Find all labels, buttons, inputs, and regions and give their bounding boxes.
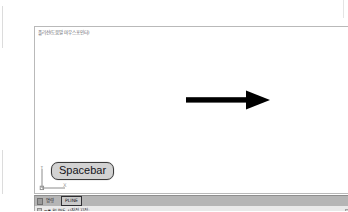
page-edge-rule-bottom bbox=[2, 150, 3, 194]
active-command-chip[interactable]: PLINE bbox=[61, 196, 82, 206]
right-arrow-icon bbox=[186, 89, 270, 111]
svg-text:Y: Y bbox=[39, 166, 44, 170]
svg-text:X: X bbox=[63, 182, 67, 188]
command-prompt-text: ⌐▪ PLINE 시작점 지정: bbox=[44, 207, 90, 211]
status-menu-icon[interactable] bbox=[37, 198, 43, 205]
status-strip[interactable]: 명령 PLINE bbox=[34, 195, 348, 206]
spacebar-key-callout[interactable]: Spacebar bbox=[51, 162, 114, 180]
canvas-caption-text: 폴리선(도움말 마우스포인터) bbox=[38, 30, 90, 36]
status-mode-label: 명령 bbox=[46, 198, 54, 204]
page-edge-rule-right bbox=[343, 0, 344, 18]
drawing-canvas[interactable]: 폴리선(도움말 마우스포인터) Y X Spacebar bbox=[34, 26, 348, 194]
command-line-bar[interactable]: ⌐▪ PLINE 시작점 지정: bbox=[34, 206, 348, 211]
command-line-gutter-icon bbox=[37, 208, 42, 212]
page-edge-rule-top bbox=[2, 6, 3, 48]
application-frame: 폴리선(도움말 마우스포인터) Y X Spacebar 명령 PLINE ⌐▪… bbox=[17, 13, 335, 203]
